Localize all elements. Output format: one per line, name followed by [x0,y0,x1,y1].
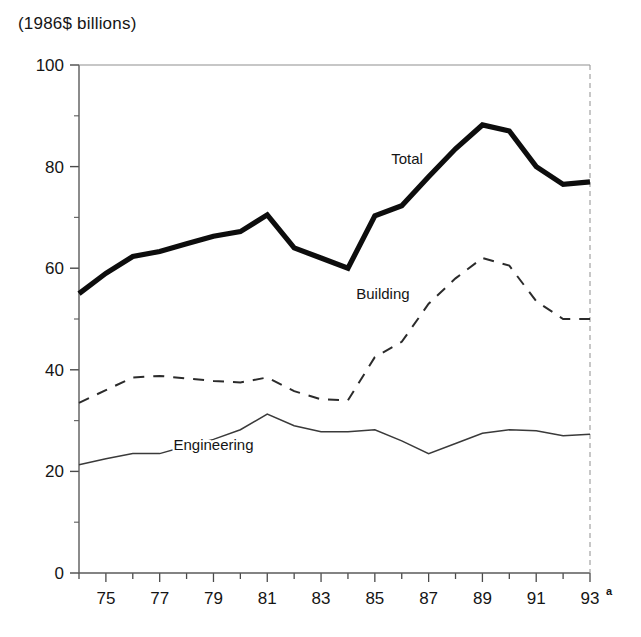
x-tick-label: 89 [473,589,492,608]
series-labels-group: TotalTotalBuildingBuildingEngineeringEng… [173,150,423,452]
series-label-engineering: Engineering [173,436,253,453]
y-axis: 020406080100 [36,56,79,583]
y-tick-label: 100 [36,56,64,75]
x-tick-label: 93 [581,589,600,608]
footnote-marker: a [606,585,613,597]
x-tick-label: 81 [258,589,277,608]
x-tick-label: 79 [204,589,223,608]
series-line-total [79,125,590,294]
x-tick-label: 91 [527,589,546,608]
data-series-group [79,125,590,465]
x-tick-label: 75 [96,589,115,608]
chart-container: (1986$ billions) 020406080100 7577798183… [0,0,641,637]
plot-frame [79,65,590,573]
x-tick-label: 83 [312,589,331,608]
footnote-marker-group: a [606,585,613,597]
series-line-engineering [79,414,590,465]
x-tick-label: 87 [419,589,438,608]
y-tick-label: 60 [45,259,64,278]
line-chart-plot: 020406080100 75777981838587899193 TotalT… [0,0,641,637]
y-tick-label: 0 [55,564,64,583]
series-label-total: Total [391,150,423,167]
series-line-building [79,258,590,403]
x-tick-label: 77 [150,589,169,608]
x-axis: 75777981838587899193 [79,573,599,608]
y-tick-label: 20 [45,462,64,481]
y-tick-label: 80 [45,158,64,177]
y-tick-label: 40 [45,361,64,380]
x-tick-label: 85 [365,589,384,608]
series-label-building: Building [356,285,409,302]
